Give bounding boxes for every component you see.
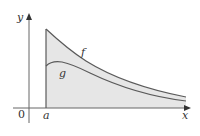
curve-f-label: f: [80, 46, 87, 59]
y-axis-label: y: [16, 11, 24, 24]
a-label: a: [43, 109, 50, 122]
y-axis-arrow-icon: [26, 13, 32, 20]
curve-g-label: g: [59, 67, 66, 80]
shaded-region: [46, 29, 186, 108]
area-between-curves-diagram: y x 0 a f g: [0, 0, 200, 136]
origin-label: 0: [18, 108, 25, 121]
x-axis-label: x: [182, 109, 189, 122]
